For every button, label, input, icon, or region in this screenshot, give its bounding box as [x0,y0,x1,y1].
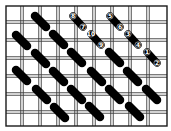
stitch-start-number: 5 [108,12,112,19]
stitch-start-number: 8 [71,12,75,19]
stitch-start-number: 10 [87,30,95,37]
stitch-end-number: 7 [81,23,85,30]
stitch-end-number: 6 [118,23,122,30]
stitch-end-number: 4 [136,41,140,48]
stitch-start-number: 1 [145,48,149,55]
stitch-end-number: 2 [155,59,159,66]
stitch-end-number: 9 [99,41,103,48]
stitch-start-number: 3 [126,30,130,37]
stitch-diagram: 87109563412 [0,0,171,131]
canvas-background [0,0,171,131]
